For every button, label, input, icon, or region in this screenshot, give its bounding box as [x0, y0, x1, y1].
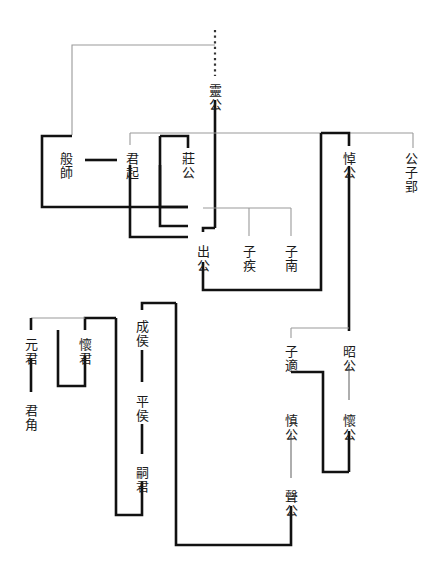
node-label: 君角 — [25, 404, 38, 432]
node-zi-shi[interactable]: 子適 — [285, 345, 298, 373]
node-chu-gong[interactable]: 出公 — [197, 245, 210, 273]
node-label: 元君 — [25, 338, 38, 366]
node-sheng-gong[interactable]: 聲公 — [285, 490, 298, 518]
node-label: 子南 — [285, 245, 298, 273]
node-cheng-hou[interactable]: 成侯 — [136, 320, 149, 348]
daogong-bracket — [203, 133, 321, 290]
node-label: 公子郢 — [405, 152, 418, 193]
node-label: 靈公 — [209, 84, 222, 112]
node-label: 懷君 — [79, 338, 92, 366]
shen-huai-bracket — [291, 372, 349, 472]
node-label: 平侯 — [136, 395, 149, 423]
node-label: 聲公 — [285, 490, 298, 518]
linggong-to-chugong — [203, 228, 215, 232]
node-label: 莊公 — [182, 152, 195, 180]
node-zhuang-gong[interactable]: 莊公 — [182, 152, 195, 180]
node-label: 子適 — [285, 345, 298, 373]
huaijun-top-hook — [85, 318, 116, 330]
node-dao-gong[interactable]: 悼公 — [343, 152, 356, 180]
node-label: 嗣君 — [136, 466, 149, 494]
genealogy-diagram: 靈公 般師 君起 莊公 悼公 公子郢 出公 子疾 子南 元君 懷君 君角 成侯 … — [0, 0, 440, 581]
node-jun-qi[interactable]: 君起 — [126, 152, 139, 180]
node-label: 般師 — [60, 152, 73, 180]
node-ban-shi[interactable]: 般師 — [60, 152, 73, 180]
node-gongzi-ying[interactable]: 公子郢 — [405, 152, 418, 193]
node-label: 成侯 — [136, 320, 149, 348]
node-label: 慎公 — [285, 414, 298, 442]
node-zhao-gong[interactable]: 昭公 — [343, 345, 356, 373]
node-huai-gong[interactable]: 懷公 — [343, 414, 356, 442]
chenghou-top-hook — [142, 303, 176, 310]
node-ping-hou[interactable]: 平侯 — [136, 395, 149, 423]
node-label: 出公 — [197, 245, 210, 273]
node-label: 昭公 — [343, 345, 356, 373]
node-zi-nan[interactable]: 子南 — [285, 245, 298, 273]
node-si-jun[interactable]: 嗣君 — [136, 466, 149, 494]
node-label: 懷公 — [343, 414, 356, 442]
node-label: 悼公 — [343, 152, 356, 180]
zhuanggong-top-hook — [160, 136, 188, 148]
node-shen-gong[interactable]: 慎公 — [285, 414, 298, 442]
node-label: 子疾 — [243, 245, 256, 273]
node-label: 君起 — [126, 152, 139, 180]
daogong-top-hook — [321, 133, 349, 146]
node-yuan-jun[interactable]: 元君 — [25, 338, 38, 366]
node-zi-ji[interactable]: 子疾 — [243, 245, 256, 273]
ling-left-hook — [72, 45, 215, 135]
node-jun-jiao[interactable]: 君角 — [25, 404, 38, 432]
shenggong-to-chenghou — [176, 303, 291, 545]
node-huai-jun[interactable]: 懷君 — [79, 338, 92, 366]
node-ling-gong[interactable]: 靈公 — [209, 84, 222, 112]
